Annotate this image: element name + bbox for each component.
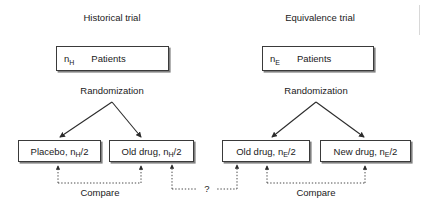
- diagram-content-layer: Historical trial nH Patients Randomizati…: [0, 0, 428, 208]
- source-box-equivalence-n: nE: [270, 53, 280, 64]
- page-edge-artifact: [419, 5, 420, 35]
- source-box-historical-n: nH: [64, 53, 74, 64]
- source-box-historical-unit: Patients: [91, 53, 125, 64]
- arm-box-placebo-label: Placebo, nH/2: [31, 146, 89, 157]
- panel-title-historical: Historical trial: [42, 12, 182, 23]
- stage-label-equivalence: Randomization: [246, 85, 386, 96]
- source-box-historical: nH Patients: [56, 46, 169, 71]
- arm-box-old-drug-historical: Old drug, nH/2: [109, 140, 194, 162]
- arm-box-placebo: Placebo, nH/2: [18, 140, 101, 162]
- source-box-equivalence-unit: Patients: [297, 53, 331, 64]
- panel-title-equivalence: Equivalence trial: [250, 12, 390, 23]
- cross-trial-link-label: ?: [197, 183, 217, 194]
- arm-box-old-drug-equivalence-label: Old drug, nE/2: [236, 146, 296, 157]
- arm-box-old-drug-equivalence: Old drug, nE/2: [222, 140, 310, 162]
- trial-design-diagram: Historical trial nH Patients Randomizati…: [0, 0, 428, 208]
- source-box-equivalence: nE Patients: [262, 46, 374, 71]
- compare-label-equivalence: Compare: [266, 187, 366, 198]
- compare-label-historical: Compare: [50, 187, 150, 198]
- arm-box-old-drug-historical-label: Old drug, nH/2: [122, 146, 182, 157]
- arm-box-new-drug: New drug, nE/2: [320, 140, 411, 162]
- stage-label-historical: Randomization: [42, 85, 182, 96]
- arm-box-new-drug-label: New drug, nE/2: [334, 146, 398, 157]
